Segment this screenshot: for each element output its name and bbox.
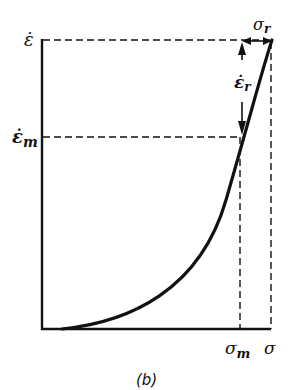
arrow-head-up-icon	[238, 42, 246, 55]
epsilon-r-label: ε̇r	[234, 72, 252, 94]
x-label-sigma: σ	[264, 338, 276, 358]
x-label-sigma-m: σm	[225, 338, 250, 361]
arrow-head-left-icon	[242, 37, 251, 45]
y-label-epsilon-dot-m: ε̇m	[12, 126, 38, 150]
figure-caption: (b)	[136, 371, 157, 389]
y-label-epsilon-dot: ε̇	[24, 29, 34, 50]
strain-rate-stress-diagram: ε̇ ε̇m σr ε̇r σm σ (b)	[0, 0, 294, 390]
sigma-r-label: σr	[253, 15, 272, 36]
